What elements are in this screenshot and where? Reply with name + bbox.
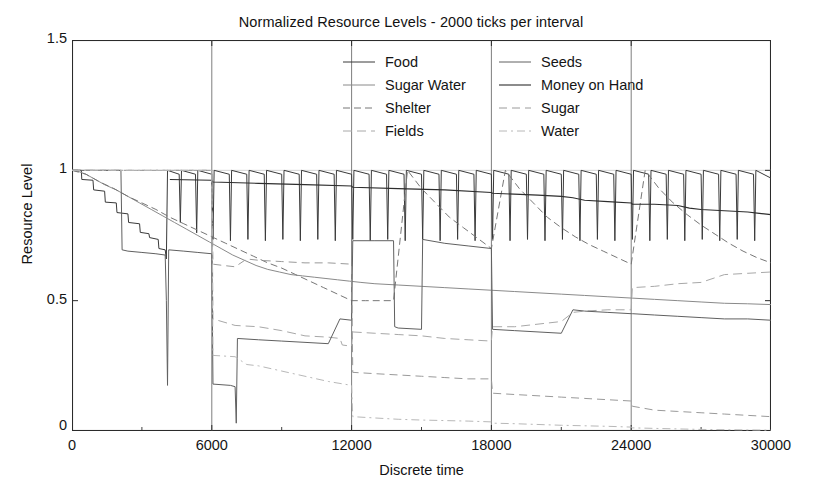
x-tick-label: 6000 (196, 437, 228, 453)
legend-item-seeds[interactable]: Seeds (498, 50, 658, 73)
legend-label: Water (541, 123, 579, 139)
legend-line-sample-icon (498, 125, 532, 137)
x-tick-label: 0 (68, 437, 76, 453)
legend-label: Money on Hand (541, 77, 643, 93)
figure: Normalized Resource Levels - 2000 ticks … (0, 0, 822, 489)
legend: FoodSeedsSugar WaterMoney on HandShelter… (342, 50, 658, 142)
legend-line-sample-icon (498, 79, 532, 91)
y-tick-label: 0 (59, 417, 67, 433)
legend-item-shelter[interactable]: Shelter (342, 96, 498, 119)
y-tick-label: 1.5 (47, 30, 67, 46)
x-axis-ticks: 0600012000180002400030000 (72, 437, 771, 459)
x-axis-label: Discrete time (72, 462, 771, 478)
series-group (72, 170, 771, 430)
legend-item-sugar[interactable]: Sugar (498, 96, 658, 119)
legend-line-sample-icon (342, 56, 376, 68)
legend-item-money-on-hand[interactable]: Money on Hand (498, 73, 658, 96)
legend-line-sample-icon (498, 102, 532, 114)
x-tick-label: 18000 (471, 437, 511, 453)
y-axis-ticks: 00.511.5 (0, 40, 67, 431)
legend-line-sample-icon (342, 79, 376, 91)
series-line-seeds (72, 170, 771, 423)
legend-label: Fields (385, 123, 424, 139)
legend-item-sugar-water[interactable]: Sugar Water (342, 73, 498, 96)
x-tick-label: 12000 (331, 437, 371, 453)
legend-label: Seeds (541, 54, 582, 70)
legend-label: Sugar Water (385, 77, 466, 93)
y-tick-label: 0.5 (47, 291, 67, 307)
legend-item-food[interactable]: Food (342, 50, 498, 73)
legend-label: Food (385, 54, 418, 70)
legend-line-sample-icon (342, 125, 376, 137)
chart-title: Normalized Resource Levels - 2000 ticks … (0, 14, 822, 30)
series-line-food (72, 170, 771, 259)
legend-line-sample-icon (342, 102, 376, 114)
y-tick-label: 1 (59, 160, 67, 176)
legend-label: Sugar (541, 100, 580, 116)
legend-item-fields[interactable]: Fields (342, 119, 498, 142)
legend-item-water[interactable]: Water (498, 119, 658, 142)
x-tick-label: 24000 (611, 437, 651, 453)
legend-label: Shelter (385, 100, 431, 116)
x-tick-label: 30000 (751, 437, 791, 453)
legend-line-sample-icon (498, 56, 532, 68)
